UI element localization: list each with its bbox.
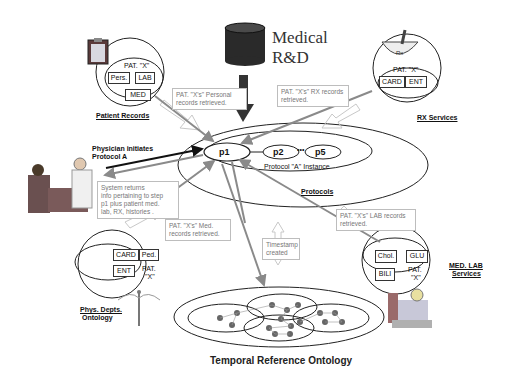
rx-card-box[interactable]: CARD [379, 76, 405, 88]
note-line: lab, RX, histories . [101, 208, 175, 216]
step-p1[interactable]: p1 [219, 147, 230, 157]
note-line: PAT. "X's" LAB records [340, 212, 412, 220]
timestamp-note: Timestamp created [262, 238, 300, 260]
database-icon [225, 23, 265, 66]
med-records-note: PAT. "X's" Med. records retrieved. [165, 219, 231, 241]
note-line: records retrieved. [176, 99, 243, 107]
note-line: System returns [101, 184, 175, 192]
rnd-title-line2: R&D [272, 48, 309, 68]
phys-depts-label-line1: Phys. Depts. [80, 306, 122, 314]
patient-records-lab-box[interactable]: LAB [135, 72, 155, 84]
temporal-ontology-graph [174, 287, 384, 347]
system-returns-note: System returns info pertaining to step p… [97, 181, 179, 219]
physician-label-line1: Physician initiates [92, 145, 153, 153]
personal-records-note: PAT. "X's" Personal records retrieved. [172, 88, 247, 110]
note-line: records retrieved. [169, 230, 227, 238]
rx-patient-label: PAT. "X" [393, 66, 418, 74]
rnd-title-line1: Medical [272, 28, 328, 48]
phys-patient-line1: PAT. [142, 265, 156, 273]
note-line: retrieved. [281, 96, 345, 104]
phys-patient-line2: "X" [145, 273, 155, 281]
physician-label-line2: Protocol A [92, 153, 127, 161]
protocols-label: Protocols [301, 188, 333, 196]
note-line: Timestamp [266, 241, 296, 249]
med-lab-label-line1: MED. LAB [449, 262, 483, 270]
clipboard-icon [88, 38, 108, 64]
note-line: PAT. "X's" RX records [281, 88, 345, 96]
phys-ped-box[interactable]: Ped. [139, 249, 159, 261]
note-line: created [266, 249, 296, 257]
note-line: retrieved. [340, 220, 412, 228]
protocol-instance-label: Protocol "A" Instance [264, 163, 330, 171]
phys-depts-circle [75, 230, 146, 298]
note-line: info pertaining to step [101, 192, 175, 200]
svg-text:Rx: Rx [396, 50, 403, 56]
note-line: PAT. "X's" Med. [169, 222, 227, 230]
lab-patient-line2: "X" [411, 274, 421, 282]
rx-records-note: PAT. "X's" RX records retrieved. [277, 85, 349, 107]
step-ellipsis: ••• [297, 146, 304, 154]
step-p5[interactable]: p5 [315, 147, 326, 157]
caduceus-icon [118, 290, 160, 326]
lab-chol-box[interactable]: Chol. [375, 250, 397, 263]
diagram-canvas: Rx [0, 0, 507, 381]
lab-patient-line1: PAT. [408, 266, 422, 274]
patient-records-label: Patient Records [96, 112, 149, 120]
patient-records-pers-box[interactable]: Pers. [108, 72, 130, 84]
patient-records-med-box[interactable]: MED [125, 89, 151, 101]
mortar-pestle-icon: Rx [382, 30, 418, 56]
lab-bili-box[interactable]: BILI [375, 268, 395, 281]
phys-card-box[interactable]: CARD [113, 249, 139, 261]
patient-records-patient-label: PAT. "X" [124, 62, 149, 70]
note-line: p1 plus patient med. [101, 200, 175, 208]
rx-ent-box[interactable]: ENT [405, 76, 427, 88]
lab-technician-icon [388, 289, 432, 328]
phys-ent-box[interactable]: ENT [113, 265, 135, 277]
rx-services-label: RX Services [417, 114, 457, 122]
phys-depts-label-line2: Ontology [82, 314, 113, 322]
lab-glu-box[interactable]: GLU [406, 250, 428, 263]
step-p2[interactable]: p2 [273, 147, 284, 157]
note-line: PAT. "X's" Personal [176, 91, 243, 99]
lab-records-note: PAT. "X's" LAB records retrieved. [336, 209, 416, 231]
med-lab-label-line2: Services [452, 270, 481, 278]
temporal-ontology-label: Temporal Reference Ontology [210, 355, 352, 367]
physician-patient-illustration [28, 158, 92, 213]
